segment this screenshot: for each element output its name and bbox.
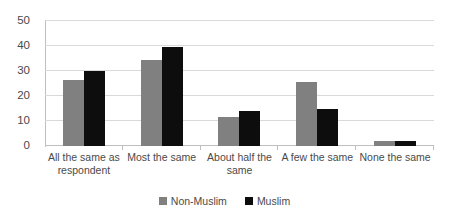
bar-muslim[interactable] (317, 109, 338, 147)
bar-group (201, 21, 279, 146)
bar-non-muslim[interactable] (374, 141, 395, 146)
bar-non-muslim[interactable] (296, 82, 317, 146)
bar-muslim[interactable] (162, 47, 183, 146)
bar-group (278, 21, 356, 146)
x-axis-category-label: A few the same (278, 151, 356, 177)
y-axis-tick-label: 50 (0, 15, 30, 27)
x-axis-category-labels: All the same as respondentMost the sameA… (45, 151, 434, 177)
x-axis-tick (355, 146, 356, 150)
legend-item-muslim[interactable]: Muslim (245, 196, 290, 207)
bar-muslim[interactable] (84, 71, 105, 146)
legend-swatch-icon (245, 197, 253, 205)
x-axis-tick (122, 146, 123, 150)
x-axis-tick (200, 146, 201, 150)
bar-group (356, 21, 434, 146)
x-axis-category-label: All the same as respondent (45, 151, 123, 177)
bar-pair (45, 21, 123, 146)
legend-swatch-icon (159, 197, 167, 205)
y-axis-tick-label: 10 (0, 115, 30, 127)
chart-legend: Non-MuslimMuslim (0, 196, 449, 207)
y-axis-tick-label: 20 (0, 90, 30, 102)
bar-muslim[interactable] (239, 111, 260, 146)
legend-label: Muslim (257, 196, 290, 207)
bar-muslim[interactable] (395, 141, 416, 146)
y-axis-tick-label: 0 (0, 140, 30, 152)
x-axis-category-label: Most the same (123, 151, 201, 177)
bar-group (123, 21, 201, 146)
legend-label: Non-Muslim (171, 196, 227, 207)
bar-pair (123, 21, 201, 146)
x-axis-category-label: About half the same (201, 151, 279, 177)
x-axis-tick (433, 146, 434, 150)
y-axis-tick-label: 30 (0, 65, 30, 77)
bar-pair (201, 21, 279, 146)
bar-pair (278, 21, 356, 146)
bar-non-muslim[interactable] (141, 60, 162, 146)
x-axis-tick (277, 146, 278, 150)
bar-pair (356, 21, 434, 146)
bar-group (45, 21, 123, 146)
bar-chart: 01020304050 All the same as respondentMo… (0, 0, 449, 219)
plot-area (45, 21, 434, 146)
bar-non-muslim[interactable] (63, 80, 84, 146)
y-axis-tick-label: 40 (0, 40, 30, 52)
legend-item-non-muslim[interactable]: Non-Muslim (159, 196, 227, 207)
x-axis-category-label: None the same (356, 151, 434, 177)
bar-groups (45, 21, 434, 146)
bar-non-muslim[interactable] (218, 117, 239, 146)
